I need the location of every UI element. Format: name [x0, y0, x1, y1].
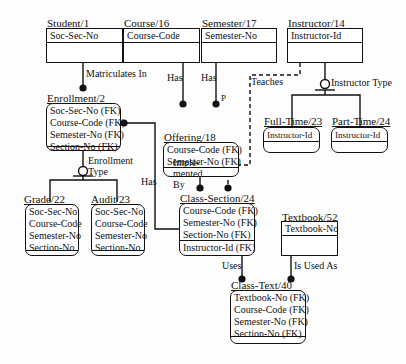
- attribute: Textbook-No (FK): [234, 292, 302, 304]
- attribute: Course-Code (FK): [234, 304, 302, 316]
- rel-implemented-line2: mented: [173, 168, 202, 179]
- attribute: Semester-No (FK): [234, 316, 302, 328]
- attribute: Course-Code (FK): [183, 205, 251, 217]
- rel-semester-has: Has: [201, 72, 217, 83]
- rel-teaches: Teaches: [251, 76, 283, 87]
- attribute: Section-No (FK): [234, 328, 302, 340]
- attribute: Section-No: [29, 242, 75, 254]
- attribute: Soc-Sec-No: [50, 30, 119, 42]
- attribute: Course-Code: [95, 218, 141, 230]
- attribute: Semester-No (FK): [50, 129, 117, 141]
- entity-class-text[interactable]: Textbook-No (FK) Course-Code (FK) Semest…: [230, 290, 306, 344]
- rel-instructor-type: Instructor Type: [331, 77, 392, 88]
- entity-audit[interactable]: Soc-Sec-No Course-Code Semester-No Secti…: [91, 204, 145, 256]
- entity-student[interactable]: Soc-Sec-No: [46, 28, 123, 63]
- attribute: Soc-Sec-No: [95, 206, 141, 218]
- attribute: Course-Code (FK): [167, 144, 235, 156]
- attribute: Course-Code (FK): [50, 117, 117, 129]
- entity-enrollment[interactable]: Soc-Sec-No (FK) Course-Code (FK) Semeste…: [46, 103, 121, 151]
- entity-label-part-time: Part-Time/24: [332, 115, 390, 127]
- attribute: Instructor-Id: [335, 129, 384, 141]
- entity-instructor[interactable]: Instructor-Id: [287, 28, 363, 63]
- attribute: Soc-Sec-No: [29, 206, 75, 218]
- attribute: Semester-No: [29, 230, 75, 242]
- attribute: Course-Code: [29, 218, 75, 230]
- entity-label-full-time: Full-Time/23: [264, 115, 322, 127]
- attribute: Section-No (FK): [50, 141, 117, 153]
- rel-uses: Uses: [222, 260, 241, 271]
- entity-course[interactable]: Course-Code: [123, 28, 200, 63]
- attribute: Section-No: [95, 242, 141, 254]
- rel-implemented-line1: Imple-: [173, 157, 200, 168]
- entity-class-section[interactable]: Course-Code (FK) Semester-No (FK) Sectio…: [179, 203, 255, 256]
- attribute: Textbook-No: [285, 223, 334, 235]
- rel-enrollment-type-line1: Enrollment: [88, 155, 133, 166]
- attribute: Instructor-Id: [267, 129, 316, 141]
- attribute: Instructor-Id: [291, 30, 359, 42]
- rel-enrollment-type-line2: Type: [88, 166, 108, 177]
- rel-enrollment-has: Has: [141, 176, 157, 187]
- rel-matriculates-in: Matriculates In: [86, 68, 147, 79]
- rel-course-has: Has: [167, 72, 183, 83]
- attribute: Section-No (FK): [183, 229, 251, 241]
- entity-part-time[interactable]: Instructor-Id: [331, 127, 388, 153]
- attribute: Semester-No: [205, 30, 273, 42]
- entity-grade[interactable]: Soc-Sec-No Course-Code Semester-No Secti…: [25, 204, 79, 256]
- entity-semester[interactable]: Semester-No: [201, 28, 277, 63]
- attribute: Soc-Sec-No (FK): [50, 105, 117, 117]
- attribute: Semester-No (FK): [183, 217, 251, 229]
- rel-is-used-as: Is Used As: [294, 260, 337, 271]
- entity-textbook[interactable]: Textbook-No: [281, 221, 338, 256]
- rel-cardinality-p: P: [221, 93, 226, 104]
- entity-full-time[interactable]: Instructor-Id: [263, 127, 320, 153]
- attribute: Semester-No: [95, 230, 141, 242]
- rel-implemented-line3: By: [173, 179, 185, 190]
- attribute: Instructor-Id (FK): [180, 241, 254, 255]
- attribute: Course-Code: [127, 30, 196, 42]
